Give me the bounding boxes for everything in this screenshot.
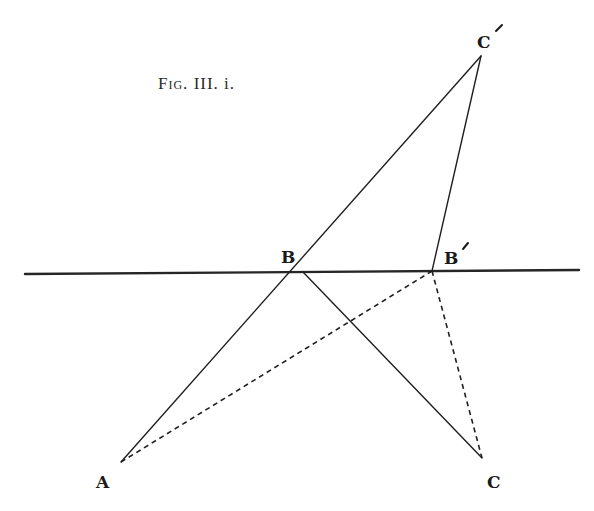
mirror-line: [25, 270, 579, 274]
label-b-prime: B: [444, 248, 458, 268]
figure-caption: Fig. III. i.: [158, 74, 235, 94]
label-b: B: [281, 247, 295, 267]
label-a: A: [95, 472, 110, 492]
label-c-prime: C: [477, 32, 491, 52]
figure-caption-prefix: Fig.: [158, 74, 188, 93]
prime-mark-b: [463, 243, 468, 249]
figure-caption-number: III. i.: [194, 74, 235, 93]
dashed-line-b-prime-to-c: [432, 271, 482, 458]
dashed-line-a-to-b-prime: [121, 271, 432, 462]
reflection-diagram: Fig. III. i. C B B A C: [0, 0, 594, 511]
line-b-prime-to-c-prime: [432, 56, 481, 271]
diagram-canvas: C B B A C: [0, 0, 594, 511]
line-b-to-c: [303, 272, 482, 458]
prime-mark-c: [496, 25, 502, 31]
label-c: C: [487, 472, 501, 492]
